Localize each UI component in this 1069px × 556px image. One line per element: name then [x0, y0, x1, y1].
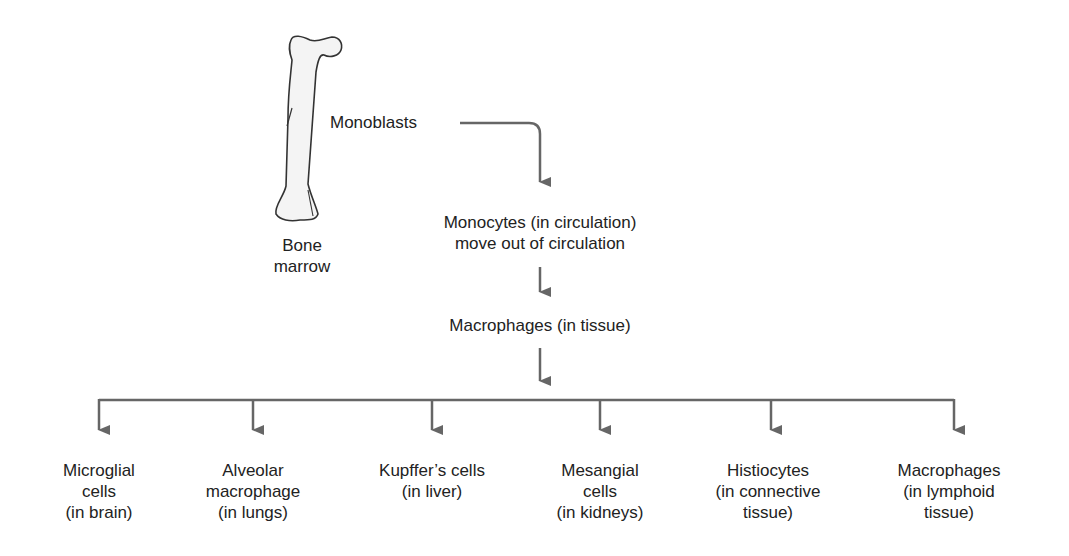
- node-macrophages-lymphoid: Macrophages (in lymphoid tissue): [879, 460, 1019, 523]
- node-monocytes: Monocytes (in circulation) move out of c…: [390, 212, 690, 254]
- branch-line: (in liver): [362, 481, 502, 502]
- node-mesangial-cells: Mesangial cells (in kidneys): [535, 460, 665, 523]
- bone-marrow-label: Bone marrow: [262, 235, 342, 277]
- branch-line: macrophage: [188, 481, 318, 502]
- monocytes-line2: move out of circulation: [390, 233, 690, 254]
- branch-line: Kupffer’s cells: [362, 460, 502, 481]
- node-macrophages-tissue: Macrophages (in tissue): [400, 315, 680, 336]
- monoblasts-text: Monoblasts: [330, 112, 450, 133]
- node-microglial-cells: Microglial cells (in brain): [39, 460, 159, 523]
- branch-line: (in lymphoid: [879, 481, 1019, 502]
- node-monoblasts: Monoblasts: [330, 112, 450, 133]
- branch-line: Alveolar: [188, 460, 318, 481]
- node-histiocytes: Histiocytes (in connective tissue): [698, 460, 838, 523]
- branch-line: Histiocytes: [698, 460, 838, 481]
- branch-line: Mesangial: [535, 460, 665, 481]
- node-kupffers-cells: Kupffer’s cells (in liver): [362, 460, 502, 502]
- branch-line: cells: [535, 481, 665, 502]
- arrow-monoblasts-to-monocytes: [460, 123, 540, 182]
- branch-line: (in kidneys): [535, 502, 665, 523]
- branch-arrows: [99, 399, 954, 430]
- node-alveolar-macrophage: Alveolar macrophage (in lungs): [188, 460, 318, 523]
- monocytes-line1: Monocytes (in circulation): [390, 212, 690, 233]
- branch-line: Macrophages: [879, 460, 1019, 481]
- branch-line: cells: [39, 481, 159, 502]
- branch-line: (in brain): [39, 502, 159, 523]
- diagram-canvas: Bone marrow Monoblasts Monocytes (in cir…: [0, 0, 1069, 556]
- branch-line: tissue): [698, 502, 838, 523]
- branch-line: tissue): [879, 502, 1019, 523]
- branch-line: Microglial: [39, 460, 159, 481]
- branch-line: (in lungs): [188, 502, 318, 523]
- branch-line: (in connective: [698, 481, 838, 502]
- bone-marrow-line2: marrow: [262, 256, 342, 277]
- macrophages-tissue-text: Macrophages (in tissue): [400, 315, 680, 336]
- bone-marrow-line1: Bone: [262, 235, 342, 256]
